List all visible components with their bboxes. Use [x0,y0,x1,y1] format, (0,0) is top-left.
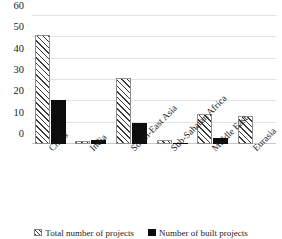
legend-item: Number of built projects [148,228,248,238]
bar-group [32,16,73,144]
bar [35,35,50,144]
y-axis-tick-label: 0 [19,129,24,139]
bar [116,78,131,144]
legend-item: Total number of projects [34,228,134,238]
bar-chart: 0102030405060 ChinaIndiaSouth-East AsiaS… [0,0,282,239]
y-axis-tick-label: 50 [14,22,25,32]
x-axis: ChinaIndiaSouth-East AsiaSub-Saharan Afr… [32,144,276,210]
legend-label: Total number of projects [45,228,134,238]
y-axis-tick-label: 20 [14,86,25,96]
solid-swatch-icon [148,229,156,236]
bar-group [113,16,154,144]
hatch-swatch-icon [34,229,42,236]
y-axis: 0102030405060 [0,16,30,144]
y-axis-tick-label: 40 [14,44,25,54]
chart-legend: Total number of projectsNumber of built … [0,228,282,239]
y-axis-tick-label: 10 [14,108,25,118]
bar-group [73,16,114,144]
y-axis-tick-label: 60 [14,1,25,11]
legend-label: Number of built projects [159,228,248,238]
y-axis-tick-label: 30 [14,65,25,75]
